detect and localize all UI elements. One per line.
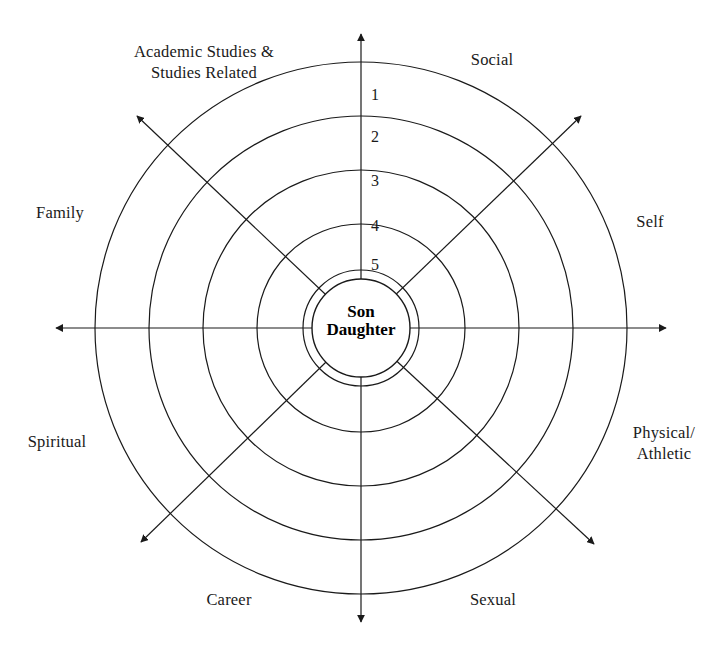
axis-label-sexual: Sexual [460,590,526,611]
center-label-son-daughter: Son Daughter [291,303,431,339]
ring-number-5: 5 [364,256,386,274]
axis-label-social: Social [462,50,522,71]
ring-number-2: 2 [364,128,386,146]
axis-label-physical-athletic: Physical/ Athletic [626,423,702,464]
diagram-canvas: 1 2 3 4 5 Son Daughter Academic Studies … [0,0,724,649]
ring-number-3: 3 [364,172,386,190]
axis-label-career: Career [196,590,262,611]
ring-number-4: 4 [364,217,386,235]
axis-label-academic-studies: Academic Studies & Studies Related [124,42,284,83]
ring-number-1: 1 [364,86,386,104]
axis-label-spiritual: Spiritual [20,432,94,453]
axis-label-self: Self [628,212,672,233]
axis-label-family: Family [28,203,92,224]
